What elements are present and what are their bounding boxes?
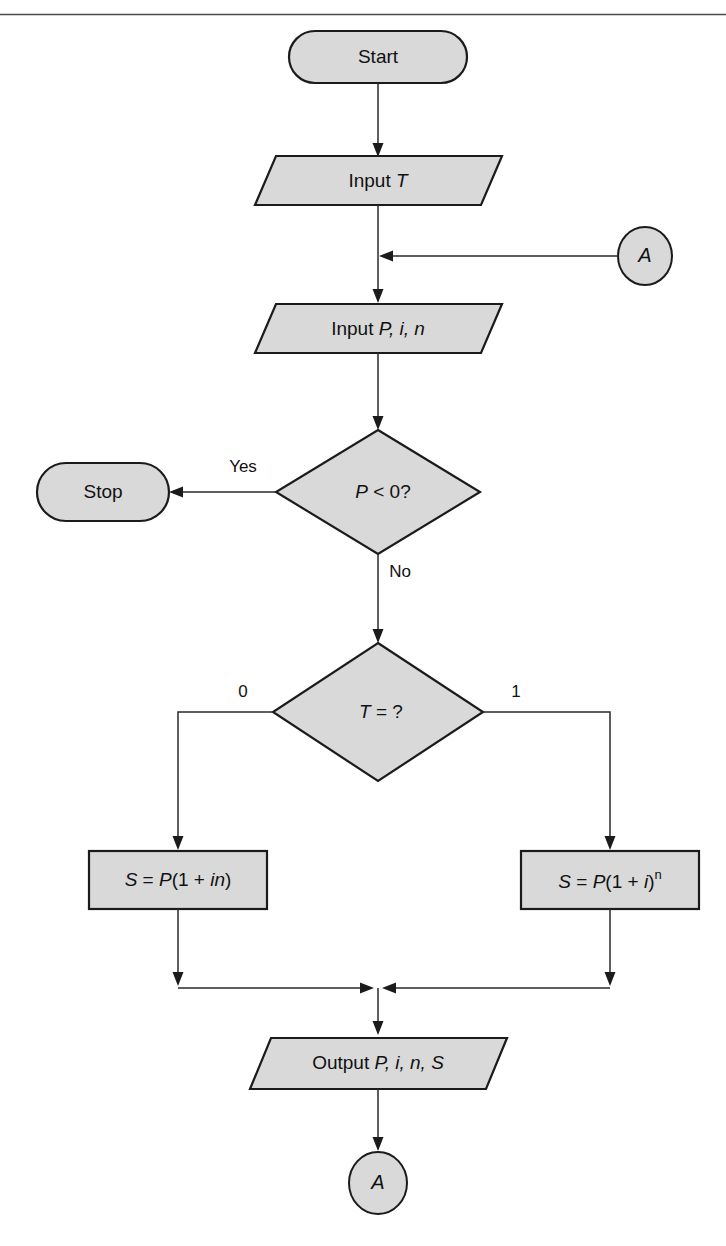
compound-interest-lhs: S bbox=[558, 871, 571, 892]
simple-interest-open: (1 + bbox=[172, 869, 211, 890]
edge-label-branch-one: 1 bbox=[511, 682, 520, 701]
arrow-head-left-icon bbox=[379, 251, 393, 262]
node-compound-interest[interactable]: S = P(1 + i)n bbox=[521, 851, 699, 909]
edge-input-t-to-input-pin bbox=[373, 205, 384, 303]
edge-branch-zero: 0 bbox=[173, 682, 274, 850]
arrow-head-left-icon bbox=[169, 487, 183, 498]
compound-interest-equals: = bbox=[571, 871, 593, 892]
edge-connector-a-top-to-spine bbox=[379, 251, 618, 262]
input-t-variable: T bbox=[396, 170, 409, 191]
flowchart-page: Start Input T A bbox=[0, 0, 726, 1246]
arrow-head-down-icon bbox=[605, 972, 616, 986]
compound-interest-label: S = P(1 + i)n bbox=[558, 867, 661, 892]
arrow-head-down-icon bbox=[373, 289, 384, 303]
arrow-head-down-icon bbox=[373, 416, 384, 430]
simple-interest-lhs: S bbox=[125, 869, 138, 890]
connector-a-bottom-label: A bbox=[370, 1171, 384, 1193]
node-input-pin[interactable]: Input P, i, n bbox=[255, 304, 502, 353]
input-pin-prefix: Input bbox=[331, 318, 379, 339]
node-stop[interactable]: Stop bbox=[37, 463, 169, 521]
edge-yes-to-stop: Yes bbox=[169, 457, 276, 497]
simple-interest-label: S = P(1 + in) bbox=[125, 869, 232, 890]
edge-start-to-input-t bbox=[373, 83, 384, 157]
edge-output-to-connector-a-bottom bbox=[373, 1089, 384, 1151]
node-simple-interest[interactable]: S = P(1 + in) bbox=[89, 851, 267, 909]
input-pin-label: Input P, i, n bbox=[331, 318, 425, 339]
edge-no-to-decision-t: No bbox=[373, 554, 411, 643]
input-pin-variables: P, i, n bbox=[379, 318, 425, 339]
edge-simple-interest-to-merge bbox=[173, 909, 375, 994]
arrow-head-right-icon bbox=[360, 983, 374, 994]
edge-branch-one: 1 bbox=[483, 682, 616, 850]
node-input-t[interactable]: Input T bbox=[255, 156, 502, 205]
arrow-head-down-icon bbox=[605, 836, 616, 850]
node-output[interactable]: Output P, i, n, S bbox=[250, 1038, 507, 1089]
stop-label: Stop bbox=[83, 481, 122, 502]
output-prefix: Output bbox=[312, 1052, 374, 1073]
decision-p-condition: < 0? bbox=[368, 481, 411, 502]
compound-interest-rhs-var: P bbox=[593, 871, 606, 892]
arrow-head-down-icon bbox=[373, 629, 384, 643]
input-t-prefix: Input bbox=[348, 170, 396, 191]
decision-t-condition: = ? bbox=[371, 701, 403, 722]
node-decision-t-type[interactable]: T = ? bbox=[273, 643, 483, 781]
edge-compound-interest-to-merge bbox=[382, 909, 616, 994]
simple-interest-term: in bbox=[210, 869, 225, 890]
arrow-head-down-icon bbox=[173, 972, 184, 986]
edge-label-branch-zero: 0 bbox=[238, 682, 247, 701]
simple-interest-equals: = bbox=[137, 869, 159, 890]
node-start[interactable]: Start bbox=[289, 31, 467, 83]
node-decision-p-negative[interactable]: P < 0? bbox=[276, 430, 480, 554]
start-label: Start bbox=[358, 46, 399, 67]
edge-label-yes: Yes bbox=[229, 457, 257, 476]
decision-t-label: T = ? bbox=[359, 701, 403, 722]
node-connector-a-bottom[interactable]: A bbox=[349, 1152, 407, 1214]
arrow-head-down-icon bbox=[373, 1137, 384, 1151]
edge-merge-to-output bbox=[373, 988, 384, 1035]
edge-input-pin-to-decision-p bbox=[373, 353, 384, 430]
simple-interest-rhs-var: P bbox=[159, 869, 172, 890]
arrow-head-down-icon bbox=[173, 836, 184, 850]
arrow-head-left-icon bbox=[382, 983, 396, 994]
flowchart-canvas: Start Input T A bbox=[0, 0, 726, 1246]
compound-interest-exponent: n bbox=[654, 867, 661, 882]
output-label: Output P, i, n, S bbox=[312, 1052, 444, 1073]
node-connector-a-top[interactable]: A bbox=[618, 227, 672, 285]
decision-p-label: P < 0? bbox=[355, 481, 410, 502]
compound-interest-open: (1 + bbox=[605, 871, 644, 892]
output-variables: P, i, n, S bbox=[374, 1052, 444, 1073]
arrow-head-down-icon bbox=[373, 1021, 384, 1035]
connector-a-top-label: A bbox=[637, 244, 651, 266]
edge-label-no: No bbox=[389, 562, 411, 581]
decision-p-variable: P bbox=[355, 481, 368, 502]
simple-interest-close: ) bbox=[225, 869, 231, 890]
input-t-label: Input T bbox=[348, 170, 409, 191]
